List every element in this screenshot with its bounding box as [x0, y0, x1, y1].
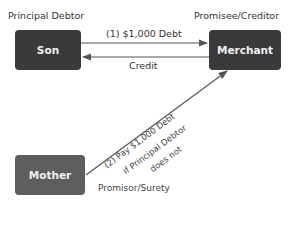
- mother-node: Mother: [15, 155, 85, 195]
- credit-label: Credit: [129, 60, 158, 71]
- son-label: Son: [37, 44, 59, 56]
- debt-label: (1) $1,000 Debt: [106, 28, 182, 39]
- son-node: Son: [15, 30, 81, 70]
- promisor-surety-label: Promisor/Surety: [98, 183, 170, 193]
- merchant-node: Merchant: [209, 30, 281, 70]
- mother-label: Mother: [29, 169, 71, 181]
- merchant-label: Merchant: [217, 44, 273, 56]
